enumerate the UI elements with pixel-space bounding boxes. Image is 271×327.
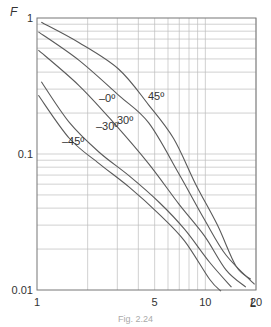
y-tick-label: 0.01: [12, 284, 33, 296]
x-tick-label: 1: [34, 296, 40, 308]
curve-label: –0º: [99, 92, 115, 104]
y-axis-title: F: [10, 5, 18, 19]
curve-label: –30º: [96, 120, 118, 132]
x-tick-label: 5: [152, 296, 158, 308]
curve-0deg: [38, 50, 245, 287]
y-tick-labels: 10.10.01: [12, 12, 33, 296]
x-axis-title: L: [250, 296, 257, 310]
curve-label: –45º: [62, 135, 84, 147]
curves: [38, 22, 254, 291]
x-tick-labels: 151020: [34, 296, 262, 308]
figure-caption: Fig. 2.24: [118, 314, 153, 324]
y-tick-label: 0.1: [18, 148, 33, 160]
x-tick-label: 10: [199, 296, 211, 308]
grid-lines: [37, 18, 256, 290]
y-tick-label: 1: [27, 12, 33, 24]
curve-labels: 45º30º–0º–30º–45º: [62, 90, 164, 147]
curve-label: 45º: [148, 90, 164, 102]
curve-label: 30º: [117, 114, 133, 126]
curve-45deg: [41, 22, 250, 279]
log-log-chart: 45º30º–0º–30º–45º 151020 10.10.01 F L Fi…: [0, 0, 271, 327]
curve-30deg: [38, 32, 254, 284]
